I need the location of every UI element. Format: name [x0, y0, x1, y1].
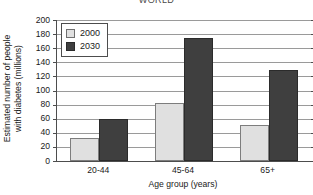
- legend-swatch-icon: [66, 42, 75, 51]
- y-axis-tick-label: 0: [26, 157, 50, 166]
- y-axis-tick-mark: [53, 105, 57, 106]
- x-axis-title: Age group (years): [56, 179, 310, 189]
- y-axis-tick-label: 120: [26, 72, 50, 81]
- y-axis-tick-mark: [53, 76, 57, 77]
- y-axis-tick-mark: [53, 147, 57, 148]
- y-axis-tick-mark-right: [311, 133, 313, 134]
- y-axis-tick-mark-right: [311, 62, 313, 63]
- y-axis-title: Estimated number of people with diabetes…: [2, 14, 23, 164]
- y-axis-tick-label: 180: [26, 30, 50, 39]
- y-axis-tick-mark: [53, 161, 57, 162]
- gridline: [57, 20, 311, 21]
- bar-chart: WORLD Estimated number of people with di…: [0, 0, 313, 195]
- legend-item: 2000: [66, 27, 100, 40]
- y-axis-tick-label: 100: [26, 86, 50, 95]
- legend-item: 2030: [66, 40, 100, 53]
- y-axis-tick-label: 160: [26, 44, 50, 53]
- y-axis-tick-mark-right: [311, 161, 313, 162]
- y-axis-tick-mark-right: [311, 20, 313, 21]
- legend: 20002030: [61, 23, 108, 57]
- y-axis-tick-mark: [53, 20, 57, 21]
- x-axis-tick-label: 65+: [238, 165, 298, 175]
- x-axis-tick-label: 20-44: [68, 165, 128, 175]
- bar: [155, 103, 184, 162]
- y-axis-tick-mark-right: [311, 48, 313, 49]
- y-axis-tick-mark: [53, 48, 57, 49]
- y-axis-tick-mark: [53, 62, 57, 63]
- y-axis-tick-mark: [53, 34, 57, 35]
- y-axis-tick-label: 140: [26, 58, 50, 67]
- y-axis-tick-mark-right: [311, 34, 313, 35]
- legend-label: 2030: [80, 42, 100, 51]
- y-axis-tick-mark-right: [311, 105, 313, 106]
- y-axis-tick-label: 20: [26, 142, 50, 151]
- y-axis-tick-mark-right: [311, 119, 313, 120]
- x-axis-tick-label: 45-64: [153, 165, 213, 175]
- bar: [99, 119, 128, 161]
- bar: [269, 70, 298, 161]
- bar: [70, 138, 99, 161]
- y-axis-tick-mark-right: [311, 147, 313, 148]
- bar: [240, 125, 269, 161]
- y-axis-tick-label: 80: [26, 100, 50, 109]
- y-axis-title-line-1: Estimated number of people: [2, 14, 13, 164]
- chart-title: WORLD: [0, 0, 313, 5]
- legend-swatch-icon: [66, 29, 75, 38]
- y-axis-tick-label: 200: [26, 16, 50, 25]
- y-axis-tick-mark: [53, 91, 57, 92]
- y-axis-tick-mark: [53, 119, 57, 120]
- y-axis-tick-mark: [53, 133, 57, 134]
- y-axis-tick-mark-right: [311, 91, 313, 92]
- bar: [184, 38, 213, 161]
- y-axis-title-line-2: with diabetes (millions): [12, 14, 23, 164]
- y-axis-tick-label: 60: [26, 114, 50, 123]
- y-axis-tick-label: 40: [26, 128, 50, 137]
- y-axis-tick-mark-right: [311, 76, 313, 77]
- legend-label: 2000: [80, 29, 100, 38]
